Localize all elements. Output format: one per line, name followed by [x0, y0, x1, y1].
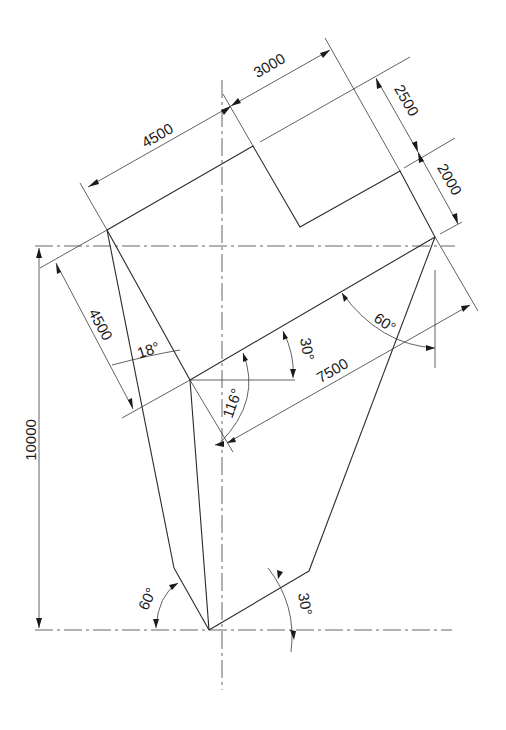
arrow-icon: [277, 570, 283, 579]
right-leg: [309, 237, 435, 571]
left-leg-bend: [174, 568, 209, 630]
dimension-lines: [39, 50, 470, 652]
arrow-icon: [461, 305, 470, 312]
left-leg-outer: [107, 230, 174, 568]
arrowheads: [36, 50, 470, 640]
dim-line-7500: [227, 305, 470, 443]
arrow-icon: [36, 618, 42, 628]
arrow-icon: [221, 106, 231, 115]
label-4500-left: 4500: [86, 306, 117, 343]
inner-leg: [190, 380, 209, 630]
arrow-icon: [36, 248, 42, 258]
label-2000: 2000: [434, 161, 465, 198]
label-18deg: 18°: [135, 338, 162, 361]
ext-line: [80, 183, 107, 230]
ext-line: [325, 38, 400, 171]
label-60deg-bottom: 60°: [135, 585, 160, 613]
ext-line: [260, 57, 410, 142]
arrow-icon: [243, 353, 248, 362]
arrow-icon: [231, 98, 241, 106]
arrow-icon: [215, 441, 224, 447]
arrow-icon: [412, 141, 418, 152]
arrow-icon: [153, 619, 159, 628]
dim-line-4500-left: [56, 263, 133, 409]
label-60deg-right: 60°: [371, 309, 399, 336]
ext-line: [435, 237, 478, 311]
arc-30-bottom: [268, 568, 292, 652]
arrow-icon: [88, 179, 99, 187]
ext-line: [40, 230, 107, 268]
label-10000: 10000: [22, 419, 39, 461]
arrow-icon: [227, 437, 236, 443]
label-4500-top: 4500: [139, 120, 176, 151]
label-3000: 3000: [251, 50, 288, 81]
centerlines: [35, 80, 455, 690]
arrow-icon: [418, 152, 424, 163]
arrow-icon: [320, 50, 330, 58]
arrow-icon: [426, 345, 435, 351]
arc-60-bottom: [156, 583, 178, 628]
label-30deg-bottom: 30°: [295, 591, 316, 616]
arrow-icon: [290, 630, 296, 640]
label-30deg-top: 30°: [297, 336, 318, 361]
arrow-icon: [342, 293, 348, 302]
ext-line: [122, 380, 190, 418]
arrow-icon: [283, 331, 288, 340]
technical-drawing: 4500 3000 2500 2000 4500 7500 10000 18° …: [0, 0, 506, 730]
arrow-icon: [128, 398, 133, 409]
arrow-icon: [376, 78, 382, 89]
object-outline: [107, 146, 435, 630]
ext-line: [440, 222, 462, 234]
base-edge: [209, 571, 309, 630]
arrow-icon: [290, 369, 296, 378]
arrow-icon: [452, 213, 458, 224]
arrow-icon: [56, 263, 61, 274]
dim-line-4500-top: [88, 106, 231, 187]
label-7500: 7500: [314, 355, 351, 386]
